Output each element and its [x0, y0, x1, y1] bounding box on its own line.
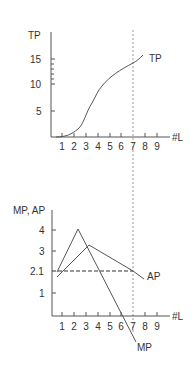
ap-curve-label: AP — [147, 271, 161, 282]
tp-curve — [56, 55, 143, 137]
tp-xtick-1: 1 — [59, 141, 65, 152]
mp-ap-chart: MP, AP #L 1 2.1 3 4 1 2 3 4 5 6 7 — [13, 205, 184, 353]
mpap-xtick-4: 4 — [95, 321, 101, 332]
mpap-xtick-8: 8 — [142, 321, 148, 332]
tp-xtick-9: 9 — [154, 141, 160, 152]
mpap-ytick-4: 4 — [39, 225, 45, 236]
mpap-xtick-3: 3 — [83, 321, 89, 332]
tp-curve-label: TP — [149, 53, 162, 64]
mpap-xtick-1: 1 — [59, 321, 65, 332]
tp-x-ticks — [62, 133, 157, 137]
tp-ytick-15: 15 — [30, 54, 42, 65]
mpap-x-label: #L — [172, 311, 184, 322]
mpap-ytick-3: 3 — [39, 246, 45, 257]
mpap-y-label: MP, AP — [13, 205, 45, 216]
tp-chart: TP #L 5 10 15 1 2 3 4 — [28, 30, 184, 152]
tp-xtick-4: 4 — [95, 141, 101, 152]
tp-ytick-5: 5 — [36, 106, 42, 117]
mpap-xtick-5: 5 — [107, 321, 113, 332]
tp-xtick-2: 2 — [71, 141, 77, 152]
mpap-ytick-2-1: 2.1 — [30, 266, 44, 277]
mpap-x-ticks — [62, 312, 157, 316]
tp-y-label: TP — [28, 30, 41, 41]
tp-y-ticks — [51, 59, 55, 111]
mpap-xtick-9: 9 — [154, 321, 160, 332]
tp-x-label: #L — [172, 132, 184, 143]
tp-xtick-5: 5 — [107, 141, 113, 152]
tp-xtick-6: 6 — [118, 141, 124, 152]
mpap-ytick-1: 1 — [39, 288, 45, 299]
tp-ytick-10: 10 — [30, 79, 42, 90]
mpap-xtick-7: 7 — [130, 321, 136, 332]
production-charts: TP #L 5 10 15 1 2 3 4 — [0, 0, 193, 367]
tp-xtick-8: 8 — [142, 141, 148, 152]
tp-xtick-7: 7 — [130, 141, 136, 152]
mpap-xtick-6: 6 — [118, 321, 124, 332]
mpap-xtick-2: 2 — [71, 321, 77, 332]
tp-xtick-3: 3 — [83, 141, 89, 152]
mpap-y-ticks — [52, 230, 56, 293]
mp-curve-label: MP — [137, 342, 152, 353]
